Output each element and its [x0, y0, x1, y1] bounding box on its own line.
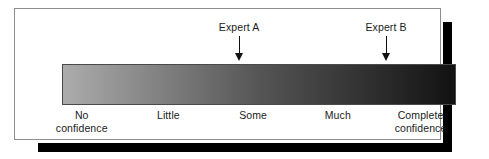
expert-marker: Expert B	[326, 21, 446, 61]
arrow-head	[382, 53, 390, 61]
scale-label-line1: No	[75, 109, 89, 121]
expert-marker-label: Expert A	[179, 21, 299, 33]
scale-label-line2: confidence	[27, 122, 137, 135]
expert-marker-label: Expert B	[326, 21, 446, 33]
scale-label-line1: Little	[157, 109, 180, 121]
figure-frame: Expert AExpert B NoconfidenceLittleSomeM…	[14, 8, 441, 140]
scale-label-line2: confidence	[366, 122, 476, 135]
expert-marker: Expert A	[179, 21, 299, 61]
drop-shadow-bottom	[38, 143, 452, 152]
scale-label-line1: Much	[325, 109, 351, 121]
down-arrow-icon	[235, 36, 244, 61]
scale-label-line1: Some	[239, 109, 267, 121]
scale-label: Completeconfidence	[366, 109, 476, 134]
scale-label-line1: Complete	[398, 109, 444, 121]
figure-root: Expert AExpert B NoconfidenceLittleSomeM…	[0, 0, 489, 159]
confidence-gradient-bar	[62, 64, 456, 105]
arrow-head	[235, 53, 243, 61]
scale-label-row: NoconfidenceLittleSomeMuchCompleteconfid…	[62, 109, 456, 139]
down-arrow-icon	[382, 36, 391, 61]
